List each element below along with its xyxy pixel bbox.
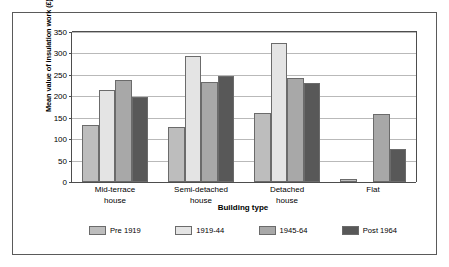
bar	[185, 56, 202, 182]
bar	[271, 43, 288, 182]
legend-swatch	[175, 226, 192, 235]
x-category-label-line: Flat	[330, 185, 416, 196]
bar	[115, 80, 132, 182]
y-tick-label: 250	[54, 70, 67, 79]
y-axis-title: Mean value of insulation work (£)	[44, 0, 53, 131]
chart-figure-frame: Mean value of insulation work (£) 050100…	[12, 12, 437, 255]
plot-area: 050100150200250300350 Mid-terracehouseSe…	[71, 32, 416, 183]
y-tick-label: 350	[54, 28, 67, 37]
bar	[99, 90, 116, 182]
bar	[287, 78, 304, 182]
bar	[390, 149, 407, 182]
x-category-label-line: Semi-detached	[158, 185, 244, 196]
bar-group	[158, 32, 244, 182]
legend-swatch	[89, 226, 106, 235]
legend-swatch	[259, 226, 276, 235]
legend-label: 1919-44	[196, 226, 224, 235]
y-tick-label: 100	[54, 135, 67, 144]
bar	[82, 125, 99, 182]
bar	[254, 113, 271, 182]
bar-group	[72, 32, 158, 182]
x-category-label-line: Detached	[244, 185, 330, 196]
legend-label: Pre 1919	[110, 226, 141, 235]
legend-item: 1919-44	[175, 226, 224, 235]
bar-chart: Mean value of insulation work (£) 050100…	[13, 13, 438, 256]
chart-legend: Pre 19191919-441945-64Post 1964	[71, 226, 415, 235]
y-tick-label: 300	[54, 49, 67, 58]
x-category-label: Flat	[330, 185, 416, 196]
bar	[373, 114, 390, 182]
legend-item: 1945-64	[259, 226, 308, 235]
bar	[168, 127, 185, 182]
bar-group	[244, 32, 330, 182]
bar	[132, 97, 149, 182]
y-tick-label: 0	[63, 178, 67, 187]
y-tick-mark	[69, 182, 72, 183]
bar	[218, 76, 235, 182]
bar	[340, 179, 357, 182]
bar	[304, 83, 321, 182]
y-tick-label: 200	[54, 92, 67, 101]
plot-right-border	[416, 31, 417, 182]
legend-label: Post 1964	[363, 226, 397, 235]
legend-label: 1945-64	[280, 226, 308, 235]
legend-item: Post 1964	[342, 226, 397, 235]
bar-group	[330, 32, 416, 182]
y-tick-label: 150	[54, 113, 67, 122]
x-category-label-line: Mid-terrace	[72, 185, 158, 196]
x-axis-title: Building type	[71, 203, 415, 212]
bar	[201, 82, 218, 182]
legend-swatch	[342, 226, 359, 235]
y-tick-label: 50	[58, 156, 67, 165]
legend-item: Pre 1919	[89, 226, 141, 235]
